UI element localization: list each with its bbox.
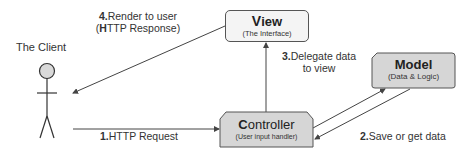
node-title: C	[238, 117, 247, 132]
edge-label-delegate: 3.Delegate data to view	[278, 50, 360, 74]
controller-node: Controller (User input handler)	[220, 112, 313, 147]
edge-label-http-request: 1.HTTP Request	[100, 130, 178, 142]
edge-text: Save or get data	[369, 130, 446, 142]
edge-number: 3.	[282, 50, 291, 62]
edge-text: TTP Response)	[107, 22, 180, 34]
node-title: odel	[406, 57, 433, 72]
edge-text: Render to user	[108, 10, 177, 22]
client-stick-figure	[37, 64, 57, 139]
node-title: V	[252, 13, 261, 29]
node-title: ontroller	[248, 117, 295, 132]
edge-text: H	[99, 22, 107, 34]
edge-text: Delegate data	[291, 50, 356, 62]
edge-number: 2.	[360, 130, 369, 142]
edge-text: HTTP Request	[109, 130, 178, 142]
head-icon	[40, 64, 55, 79]
edge-number: 4.	[99, 10, 108, 22]
edge-number: 1.	[100, 130, 109, 142]
node-title: M	[395, 57, 406, 72]
edge-label-save-get: 2.Save or get data	[360, 130, 446, 142]
node-title: iew	[261, 14, 282, 29]
edge-text: to view	[278, 62, 360, 74]
arrow-save-data	[313, 89, 385, 128]
node-subtitle: (User input handler)	[220, 132, 313, 141]
client-label: The Client	[16, 41, 66, 53]
node-subtitle: (The Interface)	[226, 29, 308, 38]
view-node: View (The Interface)	[225, 10, 309, 42]
edge-label-render: 4.Render to user (HTTP Response)	[88, 10, 188, 34]
model-node: Model (Data & Logic)	[372, 53, 455, 88]
node-subtitle: (Data & Logic)	[372, 72, 455, 82]
arrow-render-to-user	[73, 26, 225, 93]
